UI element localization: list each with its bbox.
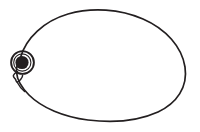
drawing-canvas: Simple black ink contour drawing on a pl… [0,0,200,132]
eye-pupil-path [15,56,28,69]
line-drawing [0,0,200,132]
